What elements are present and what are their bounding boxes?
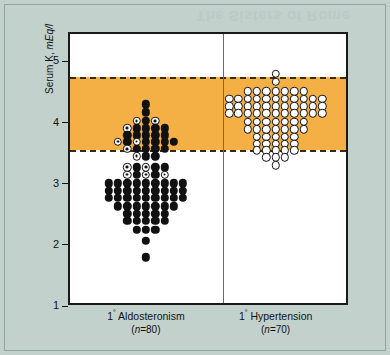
plot-panel: Serum K, mEq/l 12345 — [68, 32, 348, 305]
data-point-filled — [132, 194, 140, 202]
y-tick-3: 3 — [44, 177, 68, 189]
y-tick-2: 2 — [44, 238, 68, 250]
data-point-filled — [123, 217, 131, 225]
data-point-filled — [151, 217, 159, 225]
y-tick-4: 4 — [44, 116, 68, 128]
data-point-filled — [142, 217, 150, 225]
data-point-filled — [132, 217, 140, 225]
group-1-sample-size: (n=70) — [191, 323, 361, 337]
reference-band-upper-edge — [70, 77, 346, 79]
data-point-filled — [160, 194, 168, 202]
data-point-filled — [132, 225, 140, 233]
group-0-name-text: Aldosteronism — [116, 310, 185, 322]
group-1-name-text: Hypertension — [248, 310, 313, 322]
data-point-filled — [142, 253, 150, 261]
data-point-filled — [104, 194, 112, 202]
data-point-open — [290, 146, 298, 154]
data-point-filled — [151, 225, 159, 233]
data-point-filled — [170, 202, 178, 210]
reference-band-lower-edge — [70, 150, 346, 152]
data-point-filled — [151, 170, 159, 178]
data-point-bullseye — [160, 170, 168, 178]
data-point-open — [271, 161, 279, 169]
data-point-filled — [142, 225, 150, 233]
data-point-filled — [179, 194, 187, 202]
figure-page: The Sisters of Rome Serum K, mEq/l 12345… — [0, 0, 390, 355]
y-tick-5: 5 — [44, 54, 68, 66]
data-point-filled — [114, 202, 122, 210]
data-point-filled — [123, 194, 131, 202]
data-point-filled — [114, 194, 122, 202]
data-point-bullseye — [132, 152, 140, 160]
data-point-filled — [142, 236, 150, 244]
group-caption-hypertension: 1° Hypertension (n=70) — [191, 308, 361, 336]
data-point-bullseye — [123, 170, 131, 178]
data-point-open — [281, 153, 289, 161]
data-point-filled — [151, 152, 159, 160]
plot-area — [70, 34, 346, 303]
data-point-filled — [132, 170, 140, 178]
data-point-filled — [160, 217, 168, 225]
data-point-filled — [142, 152, 150, 160]
data-point-bullseye — [142, 170, 150, 178]
page-bleed-through-text: The Sisters of Rome — [196, 7, 366, 25]
group-divider — [223, 34, 224, 303]
data-point-filled — [142, 194, 150, 202]
data-point-open — [262, 153, 270, 161]
data-point-filled — [170, 194, 178, 202]
y-axis-label-units: mEq/l — [44, 24, 55, 50]
data-point-filled — [151, 194, 159, 202]
data-point-open — [253, 146, 261, 154]
